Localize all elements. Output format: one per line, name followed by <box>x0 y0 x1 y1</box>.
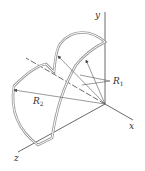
shell-outline <box>13 33 105 146</box>
z-axis <box>18 104 105 152</box>
z-axis-label: z <box>13 153 19 163</box>
r1-label: R1 <box>112 76 124 87</box>
shell <box>13 33 105 146</box>
r1-leader-b <box>82 81 110 85</box>
y-axis-label: y <box>94 10 101 20</box>
r1-arrow-a <box>58 56 105 104</box>
r2-label: R2 <box>32 96 44 107</box>
x-axis <box>105 104 133 120</box>
x-axis-label: x <box>129 121 134 131</box>
shell-diagram: y x z R1 R2 <box>0 0 145 171</box>
